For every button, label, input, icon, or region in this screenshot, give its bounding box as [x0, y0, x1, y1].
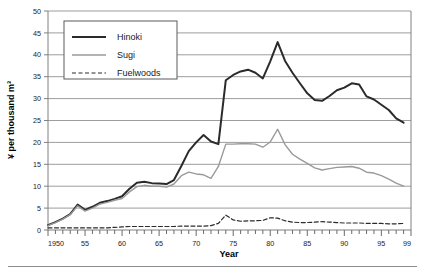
y-tick-label: 30 — [33, 94, 41, 103]
y-tick-label: 35 — [33, 72, 41, 81]
y-tick-label: 5 — [37, 204, 41, 213]
x-tick-label: 75 — [229, 239, 237, 248]
x-tick-label: 80 — [266, 239, 274, 248]
chart-figure: 05101520253035404550 1950556065707580859… — [0, 0, 425, 276]
y-tick-label: 10 — [33, 182, 41, 191]
x-axis-ticks: 195055606570758085909599 — [48, 230, 411, 248]
x-tick-label: 99 — [403, 239, 411, 248]
y-tick-label: 40 — [33, 50, 41, 59]
y-axis-title: ¥ per thousand m³ — [6, 81, 16, 159]
y-tick-label: 15 — [33, 160, 41, 169]
legend-label-fuelwoods: Fuelwoods — [117, 68, 161, 78]
y-tick-label: 50 — [33, 7, 41, 16]
x-tick-label: 55 — [81, 239, 89, 248]
y-tick-label: 45 — [33, 29, 41, 38]
x-tick-label: 60 — [118, 239, 126, 248]
x-tick-label: 70 — [192, 239, 200, 248]
chart-legend: HinokiSugiFuelwoods — [64, 21, 177, 79]
x-tick-label: 1950 — [48, 239, 64, 248]
legend-label-sugi: Sugi — [117, 50, 135, 60]
legend-label-hinoki: Hinoki — [117, 32, 142, 42]
y-axis-ticks: 05101520253035404550 — [33, 7, 48, 235]
x-tick-label: 85 — [303, 239, 311, 248]
y-tick-label: 0 — [37, 226, 41, 235]
y-tick-label: 20 — [33, 138, 41, 147]
x-tick-label: 90 — [340, 239, 348, 248]
y-tick-label: 25 — [33, 116, 41, 125]
x-axis-title: Year — [219, 249, 239, 259]
x-tick-label: 95 — [377, 239, 385, 248]
x-tick-label: 65 — [155, 239, 163, 248]
caption-divider — [8, 266, 417, 267]
line-chart: 05101520253035404550 1950556065707580859… — [0, 0, 425, 276]
caption-text — [8, 269, 417, 275]
